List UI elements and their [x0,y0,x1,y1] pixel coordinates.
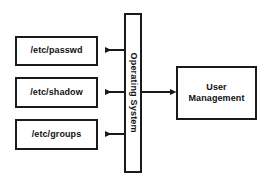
node-label-etc-shadow: /etc/shadow [30,87,83,98]
node-label-user-management-line1: User [206,82,226,92]
diagram-canvas: /etc/passwd /etc/shadow /etc/groups Oper… [0,0,271,184]
node-user-management[interactable]: User Management [176,66,257,120]
node-etc-passwd[interactable]: /etc/passwd [15,36,98,66]
node-label-operating-system: Operating System [127,53,138,133]
node-label-etc-passwd: /etc/passwd [30,45,82,56]
node-label-user-management: User Management [184,82,248,105]
node-label-etc-groups: /etc/groups [32,129,82,140]
node-etc-groups[interactable]: /etc/groups [15,119,98,150]
node-label-user-management-line2: Management [188,93,244,103]
node-etc-shadow[interactable]: /etc/shadow [15,77,98,108]
node-operating-system[interactable]: Operating System [124,13,142,173]
